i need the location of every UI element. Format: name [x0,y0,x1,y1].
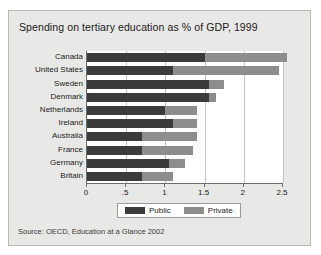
legend-swatch-public [125,207,145,214]
gridline [283,51,284,183]
bar-row: United States [87,66,283,75]
bar-segment-public [87,146,142,155]
bar-segment-public [87,80,209,89]
x-axis-tick [204,183,205,187]
category-label: Canada [55,52,87,61]
bar-segment-public [87,159,169,168]
bar-segment-public [87,106,165,115]
x-axis-tick-label: .5 [122,188,129,197]
bar-segment-public [87,132,142,141]
legend-label-public: Public [149,206,171,215]
bar-segment-public [87,66,173,75]
category-label: Denmark [51,92,87,101]
bar-row: Denmark [87,93,283,102]
legend-item-public: Public [125,206,171,215]
bar-segment-private [142,132,197,141]
x-axis-tick [243,183,244,187]
bar-segment-private [205,53,287,62]
plot-area: CanadaUnited StatesSwedenDenmarkNetherla… [86,51,283,183]
plot-wrapper: CanadaUnited StatesSwedenDenmarkNetherla… [9,45,312,197]
bar-segment-private [173,119,197,128]
bar-segment-private [209,80,225,89]
bar-segment-public [87,93,209,102]
bar-segment-private [209,93,217,102]
x-axis-tick [164,183,165,187]
legend-item-private: Private [184,206,233,215]
bar-row: Canada [87,53,283,62]
x-axis-tick-label: 2.5 [276,188,287,197]
bar-segment-public [87,53,205,62]
bar-row: Britain [87,172,283,181]
source-note: Source: OECD, Education at a Glance 2002 [18,227,164,236]
category-label: France [58,145,87,154]
x-axis-tick-label: 0 [84,188,88,197]
legend-swatch-private [184,207,204,214]
bar-row: France [87,146,283,155]
bar-row: Australia [87,132,283,141]
bar-row: Ireland [87,119,283,128]
bar-segment-private [142,146,193,155]
x-axis-tick-label: 2 [241,188,245,197]
bar-segment-public [87,172,142,181]
bar-segment-private [142,172,173,181]
x-axis-tick [282,183,283,187]
x-axis-tick-label: 1 [162,188,166,197]
category-label: Sweden [54,79,87,88]
legend-label-private: Private [208,206,233,215]
x-axis-tick [125,183,126,187]
bar-segment-private [169,159,185,168]
bar-row: Sweden [87,80,283,89]
x-axis-tick-label: 1.5 [198,188,209,197]
category-label: Britain [60,171,87,180]
x-axis-line [86,183,283,184]
category-label: Ireland [59,118,87,127]
category-label: United States [35,65,87,74]
bar-segment-private [165,106,196,115]
category-label: Germany [50,158,87,167]
bar-row: Netherlands [87,106,283,115]
bar-row: Germany [87,159,283,168]
page-title: Spending on tertiary education as % of G… [19,21,258,33]
category-label: Australia [52,131,87,140]
bar-segment-public [87,119,173,128]
chart-figure: Spending on tertiary education as % of G… [8,10,311,246]
bar-segment-private [173,66,279,75]
chart-legend: Public Private [117,203,241,218]
category-label: Netherlands [40,105,87,114]
x-axis-tick [86,183,87,187]
